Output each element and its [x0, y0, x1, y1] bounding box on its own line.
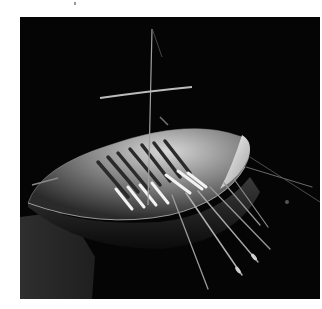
oar-blades: [234, 253, 258, 275]
rigging-line: [153, 31, 162, 57]
boat-illustration: [20, 17, 320, 299]
scan-speck: [74, 2, 76, 5]
light-speck: [285, 200, 289, 204]
mast-stay: [160, 117, 168, 125]
yard-arm: [100, 87, 192, 98]
boat-photograph: Photograph of a small gold boat model wi…: [20, 17, 320, 299]
